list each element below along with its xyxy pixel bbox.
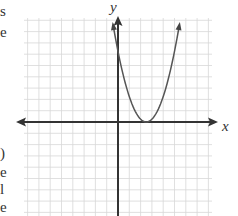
coordinate-plane: y x — [0, 0, 238, 216]
y-axis — [114, 16, 123, 216]
curve-right-arrow-icon — [176, 22, 182, 30]
x-axis-label: x — [221, 118, 229, 134]
parabola-curve — [113, 26, 179, 122]
y-axis-label: y — [108, 0, 117, 15]
